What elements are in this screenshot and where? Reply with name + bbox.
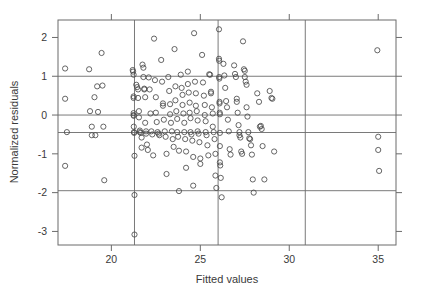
x-tick-label: 25: [194, 253, 206, 265]
y-tick-label: -2: [38, 186, 47, 198]
x-tick-label: 30: [283, 253, 295, 265]
y-axis-title: Normalized residuals: [8, 80, 20, 183]
chart-container: 20253035210-1-2-3 Fitted values Normaliz…: [0, 0, 421, 296]
scatter-plot: 20253035210-1-2-3 Fitted values Normaliz…: [0, 0, 421, 296]
y-tick-label: 0: [41, 109, 47, 121]
plot-background: [0, 0, 421, 296]
y-tick-label: 1: [41, 70, 47, 82]
x-axis-title: Fitted values: [196, 273, 259, 285]
y-tick-label: -1: [38, 148, 47, 160]
x-tick-label: 35: [372, 253, 384, 265]
y-tick-label: 2: [41, 31, 47, 43]
x-tick-label: 20: [106, 253, 118, 265]
y-tick-label: -3: [38, 225, 47, 237]
